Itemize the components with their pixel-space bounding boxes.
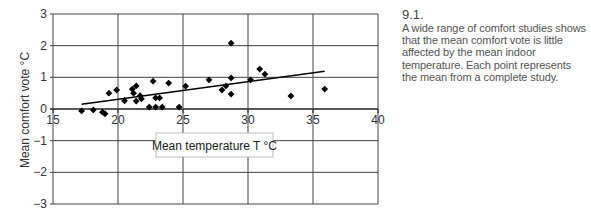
- svg-text:35: 35: [306, 113, 320, 127]
- svg-text:−2: −2: [33, 165, 47, 179]
- x-axis-ticks: 152025303540: [46, 113, 385, 127]
- data-point: [165, 80, 172, 87]
- figure-number: 9.1.: [402, 8, 588, 22]
- svg-text:2: 2: [40, 39, 47, 53]
- data-point: [228, 75, 235, 82]
- y-axis-label: Mean comfort vote °C: [18, 52, 32, 169]
- data-point: [156, 95, 163, 102]
- data-point: [113, 87, 120, 94]
- svg-text:25: 25: [176, 113, 190, 127]
- data-point: [321, 86, 328, 93]
- x-axis-label-box: Mean temperature T °C: [152, 133, 277, 157]
- x-axis-label: Mean temperature T °C: [152, 139, 277, 153]
- data-point: [150, 78, 157, 85]
- data-points: [78, 40, 328, 117]
- data-point: [106, 90, 113, 97]
- svg-text:15: 15: [46, 113, 60, 127]
- data-point: [90, 107, 97, 114]
- figure-caption: 9.1. A wide range of comfort studies sho…: [402, 8, 588, 83]
- svg-text:3: 3: [40, 7, 47, 21]
- data-point: [288, 93, 295, 100]
- figure-caption-text: A wide range of comfort studies shows th…: [402, 22, 588, 83]
- data-point: [262, 71, 269, 78]
- y-axis-ticks: 3210−1−2−3: [33, 7, 47, 211]
- svg-text:40: 40: [371, 113, 385, 127]
- svg-text:−3: −3: [33, 197, 47, 211]
- svg-text:30: 30: [241, 113, 255, 127]
- svg-text:20: 20: [111, 113, 125, 127]
- svg-text:1: 1: [40, 70, 47, 84]
- chart-grid: [50, 14, 378, 204]
- data-point: [228, 91, 235, 98]
- svg-text:−1: −1: [33, 134, 47, 148]
- data-point: [256, 66, 263, 73]
- scatter-chart: 3210−1−2−3 152025303540 Mean temperature…: [0, 0, 400, 213]
